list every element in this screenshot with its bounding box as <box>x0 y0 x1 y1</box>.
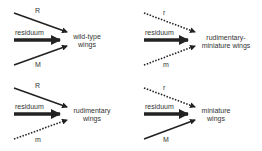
outcome-line1: miniature <box>199 107 233 115</box>
label-top-allele: r <box>163 84 165 92</box>
outcome-line1: rudimentary- <box>195 34 257 42</box>
outcome-line2: wings <box>70 41 104 49</box>
outcome-line1: rudimentary <box>72 107 112 115</box>
panel-wild-type <box>14 13 67 65</box>
label-residuum: residuum <box>145 29 174 37</box>
label-bottom-allele: M <box>163 136 169 144</box>
outcome-line2: wings <box>199 115 233 123</box>
outcome-rudimentary-miniature: rudimentary- miniature wings <box>195 34 257 50</box>
genetic-interaction-diagram <box>0 0 262 151</box>
panel-rudimentary <box>14 88 67 139</box>
outcome-line2: wings <box>72 115 112 123</box>
panel-miniature <box>144 88 195 139</box>
label-residuum: residuum <box>15 103 44 111</box>
label-top-allele: R <box>35 7 40 15</box>
panel-rudimentary-miniature <box>144 13 195 65</box>
label-residuum: residuum <box>15 29 44 37</box>
label-residuum: residuum <box>145 103 174 111</box>
label-top-allele: R <box>35 82 40 90</box>
arrow-M <box>144 120 195 139</box>
arrow-m <box>144 46 195 65</box>
outcome-wild-type: wild-type wings <box>70 33 104 49</box>
label-bottom-allele: m <box>35 136 41 144</box>
outcome-line1: wild-type <box>70 33 104 41</box>
label-bottom-allele: m <box>163 61 169 69</box>
label-top-allele: r <box>163 9 165 17</box>
outcome-miniature: miniature wings <box>199 107 233 123</box>
label-bottom-allele: M <box>35 61 41 69</box>
outcome-line2: miniature wings <box>195 42 257 50</box>
outcome-rudimentary: rudimentary wings <box>72 107 112 123</box>
